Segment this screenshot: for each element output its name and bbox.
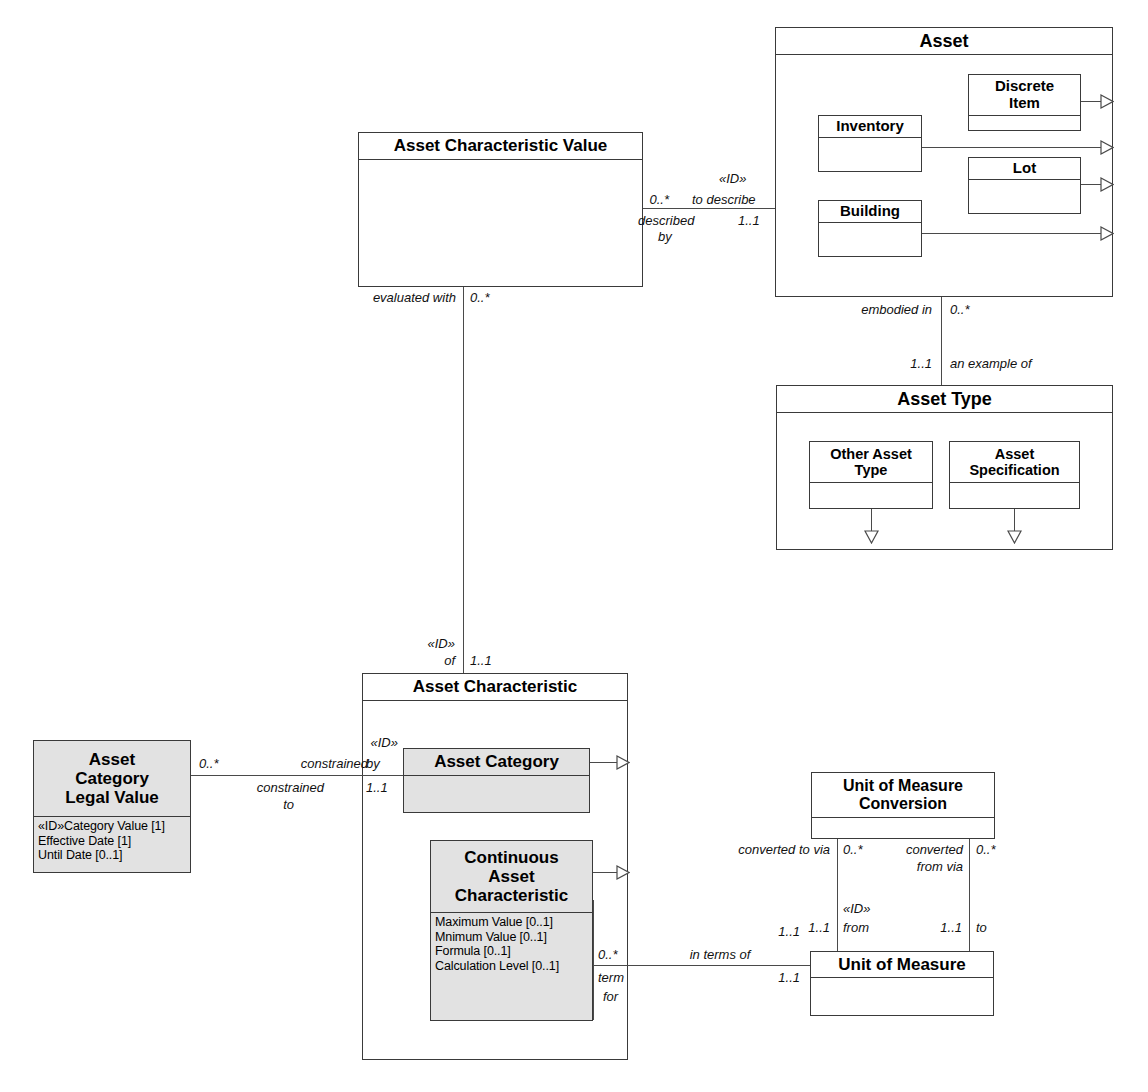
class-name-asset-category-legal-value: Asset Category Legal Value: [34, 741, 190, 817]
class-box-asset-category[interactable]: Asset Category: [403, 748, 590, 813]
role-acv-asset-target: to describe: [692, 193, 756, 208]
stereotype-acv-asset-target: «ID»: [719, 172, 746, 187]
class-box-building[interactable]: Building: [818, 200, 922, 257]
class-box-inventory[interactable]: Inventory: [818, 115, 922, 172]
mult-acv-ac-target: 1..1: [470, 654, 492, 669]
class-name-asset-category: Asset Category: [404, 749, 589, 776]
stereotype-acv-ac-target: «ID»: [385, 637, 455, 652]
generalization-arrow-asset-specification: [1007, 530, 1022, 544]
class-name-continuous-asset-characteristic: Continuous Asset Characteristic: [431, 841, 592, 913]
role-acv-ac-source: evaluated with: [338, 291, 456, 306]
mult-aclv-ac-source: 0..*: [199, 757, 219, 772]
mult-aclv-ac-target: 1..1: [366, 781, 388, 796]
role-uomc-uom-right-line1: converted: [845, 843, 963, 858]
other-asset-type-body: [810, 483, 932, 510]
uomc-line2: Conversion: [859, 795, 947, 813]
mult-asset-assettype-source: 0..*: [950, 303, 970, 318]
role-cac-uom-source-line2: for: [603, 990, 618, 1005]
continuous-asset-characteristic-attributes: Maximum Value [0..1] Mnimum Value [0..1]…: [431, 913, 592, 976]
mult-cac-uom-target-top: 1..1: [700, 925, 800, 940]
attribute-item: Formula [0..1]: [435, 944, 589, 959]
mult-asset-assettype-target: 1..1: [866, 357, 932, 372]
class-box-other-asset-type[interactable]: Other Asset Type: [809, 441, 933, 509]
generalization-arrow-building: [1100, 226, 1114, 241]
cac-line2: Asset: [488, 867, 534, 886]
class-box-unit-of-measure-conversion[interactable]: Unit of Measure Conversion: [811, 772, 995, 839]
assoc-line-aclv-ac: [191, 775, 403, 776]
asset-specification-line1: Asset: [995, 446, 1035, 462]
role-cac-uom-target: in terms of: [640, 948, 800, 963]
generalization-arrow-discrete-item: [1100, 94, 1114, 109]
role-uomc-uom-right-target: to: [976, 921, 987, 936]
mult-cac-uom-source: 0..*: [598, 948, 618, 963]
unit-of-measure-body: [811, 978, 993, 1015]
assoc-line-uomc-uom-right: [969, 839, 970, 951]
gen-line-inventory: [922, 147, 1106, 148]
class-box-asset-characteristic-value[interactable]: Asset Characteristic Value: [358, 132, 643, 287]
generalization-arrow-asset-category: [616, 755, 630, 770]
mult-uomc-uom-right-top: 0..*: [976, 843, 996, 858]
gen-line-building: [922, 233, 1106, 234]
other-asset-type-line2: Type: [855, 462, 888, 478]
discrete-item-body: [969, 116, 1080, 132]
class-name-inventory: Inventory: [819, 116, 921, 138]
asset-specification-line2: Specification: [969, 462, 1059, 478]
assoc-line-acv-ac: [463, 287, 464, 673]
class-name-asset: Asset: [776, 28, 1112, 55]
reverse-role-aclv-ac-line1: constrained: [196, 781, 324, 796]
unit-of-measure-conversion-body: [812, 818, 994, 838]
discrete-item-line1: Discrete: [995, 78, 1054, 95]
role-acv-asset-source-line1: described: [638, 214, 694, 229]
class-box-unit-of-measure[interactable]: Unit of Measure: [810, 951, 994, 1016]
role-uomc-uom-left: converted to via: [700, 843, 830, 858]
class-name-unit-of-measure: Unit of Measure: [811, 952, 993, 978]
role-aclv-ac-target: by: [366, 757, 380, 772]
asset-category-legal-value-attributes: «ID»Category Value [1] Effective Date [1…: [34, 817, 190, 865]
attribute-item: «ID»Category Value [1]: [38, 819, 187, 834]
cac-line1: Continuous: [464, 848, 558, 867]
class-box-lot[interactable]: Lot: [968, 157, 1081, 214]
class-box-asset-category-legal-value[interactable]: Asset Category Legal Value «ID»Category …: [33, 740, 191, 873]
class-box-continuous-asset-characteristic[interactable]: Continuous Asset Characteristic Maximum …: [430, 840, 593, 1021]
role-uomc-uom-left-target: from: [843, 921, 869, 936]
assoc-line-uomc-uom-left: [837, 839, 838, 951]
role-asset-assettype-target: an example of: [950, 357, 1032, 372]
asset-specification-body: [950, 483, 1079, 510]
class-box-asset-specification[interactable]: Asset Specification: [949, 441, 1080, 509]
mult-cac-uom-target-bottom: 1..1: [670, 971, 800, 986]
class-name-asset-characteristic-value: Asset Characteristic Value: [359, 133, 642, 160]
assoc-line-cac-uom: [593, 965, 810, 966]
aclv-line3: Legal Value: [65, 788, 159, 807]
role-acv-asset-source-line2: by: [658, 230, 672, 245]
uomc-line1: Unit of Measure: [843, 777, 963, 795]
generalization-arrow-inventory: [1100, 140, 1114, 155]
aclv-line2: Category: [75, 769, 149, 788]
cac-line3: Characteristic: [455, 886, 568, 905]
class-box-discrete-item[interactable]: Discrete Item: [968, 74, 1081, 131]
attribute-item: Mnimum Value [0..1]: [435, 930, 589, 945]
class-name-asset-specification: Asset Specification: [950, 442, 1079, 483]
discrete-item-line2: Item: [1009, 95, 1040, 112]
stereotype-uomc-uom-left: «ID»: [843, 902, 870, 917]
attribute-item: Maximum Value [0..1]: [435, 915, 589, 930]
role-asset-assettype-source: embodied in: [810, 303, 932, 318]
role-aclv-ac-source: constrained: [240, 757, 368, 772]
building-body: [819, 223, 921, 258]
uml-class-diagram: Asset Discrete Item Inventory Lot Buildi…: [0, 0, 1148, 1092]
mult-acv-ac-source: 0..*: [470, 291, 490, 306]
stereotype-aclv-ac-target: «ID»: [350, 736, 398, 751]
asset-category-body: [404, 776, 589, 812]
inventory-body: [819, 138, 921, 173]
other-asset-type-line1: Other Asset: [830, 446, 912, 462]
aclv-line1: Asset: [89, 750, 135, 769]
class-name-lot: Lot: [969, 158, 1080, 180]
class-name-asset-type: Asset Type: [777, 386, 1112, 413]
class-name-asset-characteristic: Asset Characteristic: [363, 674, 627, 701]
lot-body: [969, 180, 1080, 215]
class-name-other-asset-type: Other Asset Type: [810, 442, 932, 483]
mult-acv-asset-source: 0..*: [629, 193, 669, 208]
assoc-tick-cac-uom: [593, 900, 594, 1020]
class-name-unit-of-measure-conversion: Unit of Measure Conversion: [812, 773, 994, 818]
class-name-discrete-item: Discrete Item: [969, 75, 1080, 116]
attribute-item: Calculation Level [0..1]: [435, 959, 589, 974]
